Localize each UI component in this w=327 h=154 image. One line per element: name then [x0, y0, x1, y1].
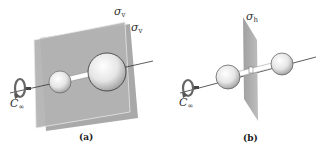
left-atom	[216, 65, 240, 89]
small-atom	[49, 71, 71, 93]
sigma-subscript: v	[139, 27, 143, 35]
right-atom	[271, 53, 293, 75]
c-infinity-label-a: C∞	[10, 98, 24, 111]
panel-a	[10, 22, 153, 131]
sigma-symbol: σ	[114, 5, 122, 18]
sigma-v-label-1: σv	[114, 6, 125, 19]
large-atom	[88, 53, 126, 91]
panel-b	[180, 17, 316, 121]
sigma-subscript: v	[122, 11, 126, 19]
caption-b: (b)	[243, 134, 258, 143]
inversion-center-marker	[249, 67, 253, 73]
sigma-symbol: σ	[131, 21, 139, 34]
sigma-h-label: σh	[246, 11, 258, 24]
sigma-subscript: h	[254, 16, 259, 24]
sigma-symbol: σ	[246, 10, 254, 23]
c-infinity-label-b: C∞	[179, 97, 193, 110]
sigma-v-label-2: σv	[131, 22, 142, 35]
c-subscript: ∞	[187, 102, 193, 110]
caption-a: (a)	[79, 133, 93, 142]
diagram-canvas	[0, 0, 327, 154]
rotation-arrow-icon	[14, 79, 31, 99]
c-subscript: ∞	[18, 103, 24, 111]
